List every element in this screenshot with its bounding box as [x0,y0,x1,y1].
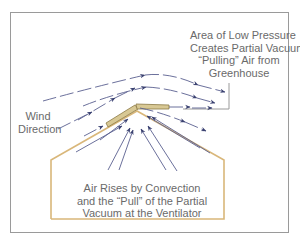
convection-line-1: Air Rises by Convection [72,182,212,195]
low-pressure-label: Area of Low Pressure Creates Partial Vac… [190,29,288,79]
convection-line-2: and the “Pull” of the Partial [72,195,212,208]
convection-label: Air Rises by Convection and the “Pull” o… [72,182,212,220]
low-pressure-line-4: Greenhouse [190,67,288,80]
convection-line-3: Vacuum at the Ventilator [72,207,212,220]
wind-direction-label: Wind Direction [18,110,58,135]
low-pressure-line-3: “Pulling” Air from [190,54,288,67]
low-pressure-line-2: Creates Partial Vacuum; [190,42,288,55]
wind-direction-line-1: Wind [18,110,58,123]
wind-direction-line-2: Direction [18,123,58,136]
low-pressure-line-1: Area of Low Pressure [190,29,288,42]
